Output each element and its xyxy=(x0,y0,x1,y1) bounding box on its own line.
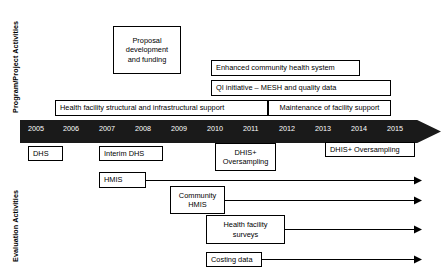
activity-box-dhs: DHS xyxy=(28,146,63,161)
year-label-2005: 2005 xyxy=(28,124,44,133)
activity-box-interim-dhs: Interim DHS xyxy=(99,146,163,161)
timeline-figure: Program/Project Activities Evaluation Ac… xyxy=(0,0,441,276)
axis-label-evaluation-activities: Evaluation Activities xyxy=(11,190,20,262)
flow-arrow-community-hmis xyxy=(225,196,422,205)
year-label-2015: 2015 xyxy=(387,124,403,133)
activity-box-health-facility-surveys: Health facility surveys xyxy=(206,215,285,244)
year-label-2010: 2010 xyxy=(207,124,223,133)
year-label-2012: 2012 xyxy=(279,124,295,133)
activity-box-qi-initiative: QI initiative – MESH and quality data xyxy=(211,80,391,96)
year-label-2009: 2009 xyxy=(171,124,187,133)
axis-label-program-activities: Program/Project Activities xyxy=(11,21,20,113)
activity-box-hmis: HMIS xyxy=(99,172,146,188)
year-label-2013: 2013 xyxy=(315,124,331,133)
year-label-2008: 2008 xyxy=(135,124,151,133)
activity-box-proposal-development: Proposal development and funding xyxy=(113,26,181,74)
flow-arrow-health-facility-surveys xyxy=(285,225,422,234)
year-label-2007: 2007 xyxy=(99,124,115,133)
activity-box-community-hmis: Community HMIS xyxy=(170,186,225,214)
activity-box-maintenance-of-facility-support: Maintenance of facility support xyxy=(268,100,391,116)
flow-arrow-hmis xyxy=(146,176,422,185)
timeline-arrow-band xyxy=(20,120,441,143)
activity-box-health-facility-support: Health facility structural and infrastru… xyxy=(55,100,268,116)
activity-box-dhis-plus-oversampling-2013: DHIS+ Oversampling xyxy=(325,142,415,157)
activity-box-enhanced-community-health-system: Enhanced community health system xyxy=(211,60,360,76)
activity-box-dhis-plus-oversampling-2010: DHIS+ Oversampling xyxy=(215,143,276,171)
activity-box-costing-data: Costing data xyxy=(206,252,262,267)
year-label-2006: 2006 xyxy=(63,124,79,133)
year-label-2011: 2011 xyxy=(243,124,258,133)
flow-arrow-costing-data xyxy=(262,255,422,264)
year-label-2014: 2014 xyxy=(351,124,367,133)
